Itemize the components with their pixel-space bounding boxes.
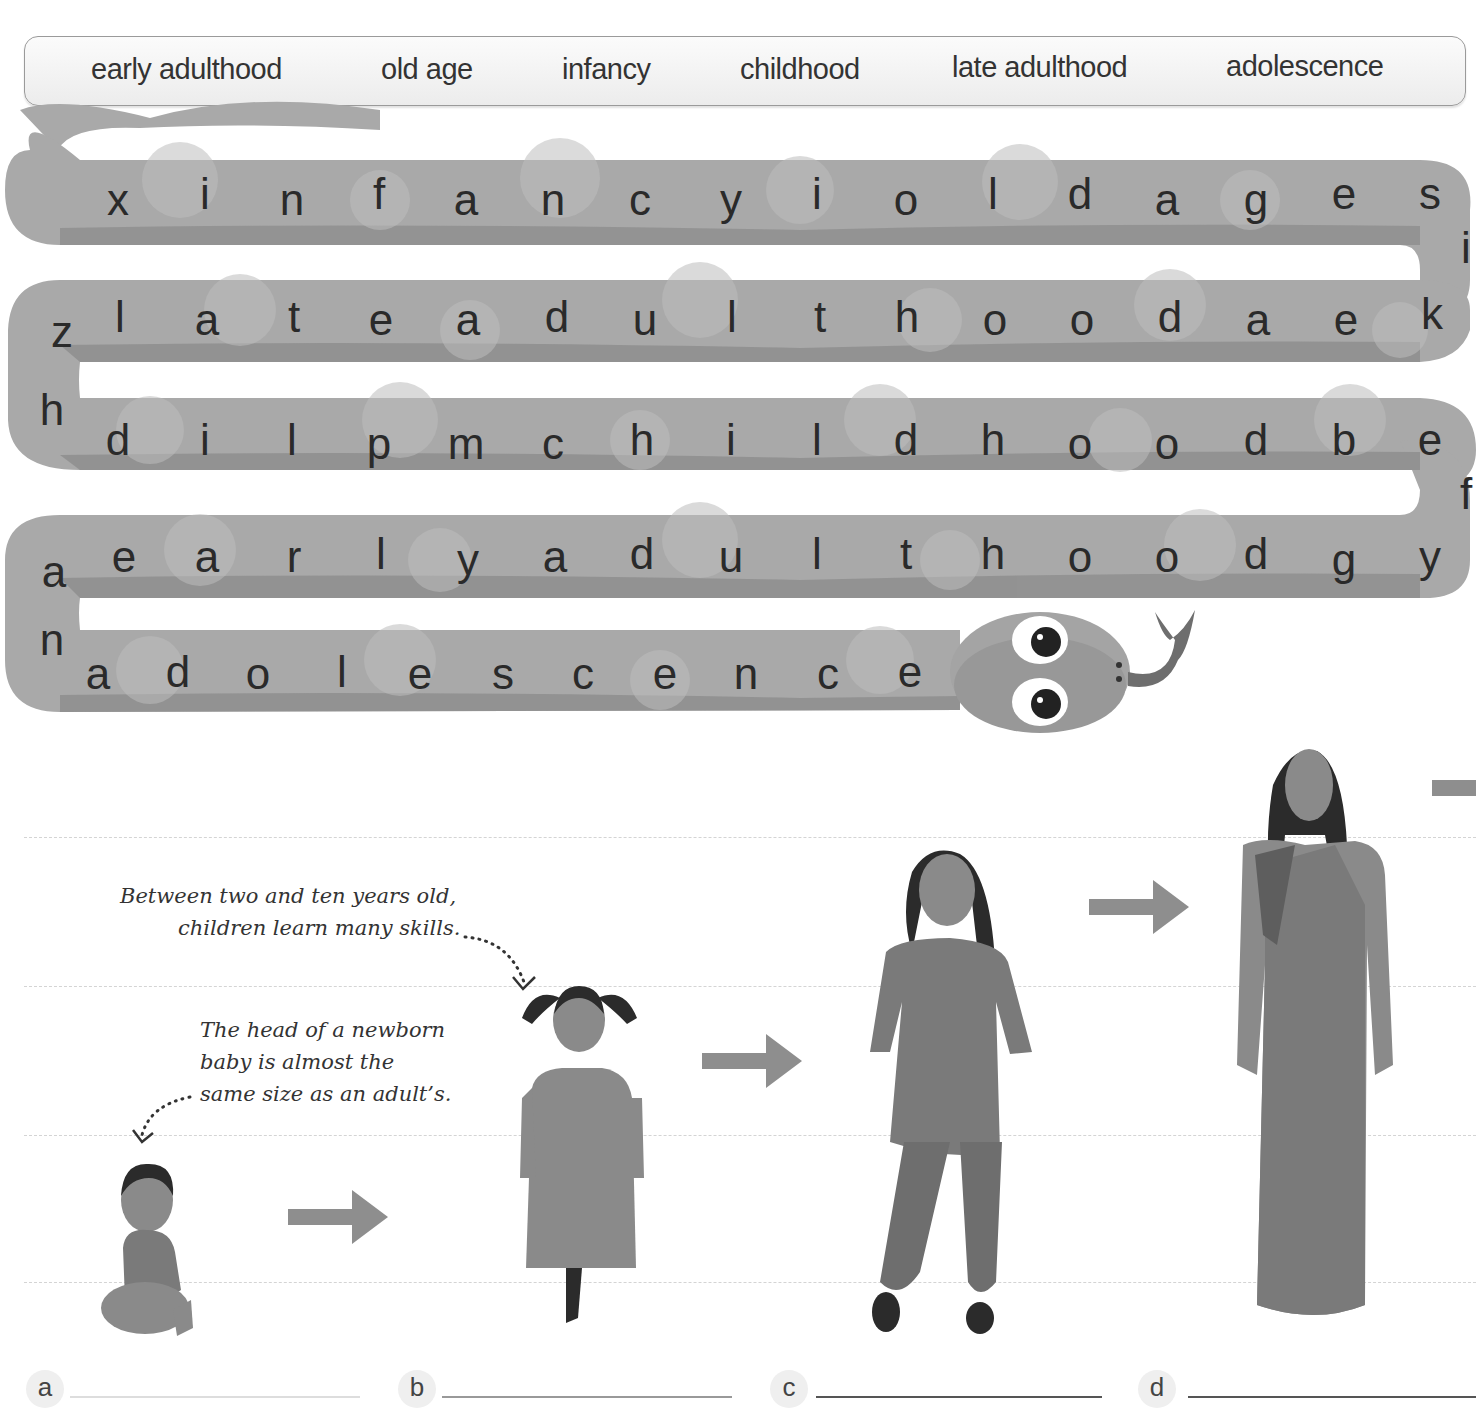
answer-label-d: d [1138, 1370, 1176, 1408]
arrow-right-icon [1089, 880, 1189, 934]
answer-label-c: c [770, 1370, 808, 1408]
answer-line-a[interactable] [70, 1396, 360, 1398]
adolescent-figure [850, 842, 1040, 1342]
arrow-right-icon [702, 1034, 802, 1088]
child-figure [512, 978, 647, 1338]
answer-label-a: a [26, 1370, 64, 1408]
baby-figure [95, 1160, 205, 1340]
answer-line-b[interactable] [442, 1396, 732, 1398]
answer-label-b: b [398, 1370, 436, 1408]
arrow-partial-icon [1432, 780, 1476, 796]
arrow-right-icon [288, 1190, 388, 1244]
answer-line-c[interactable] [816, 1396, 1102, 1398]
answer-line-d[interactable] [1188, 1396, 1476, 1398]
adult-figure [1225, 745, 1400, 1325]
